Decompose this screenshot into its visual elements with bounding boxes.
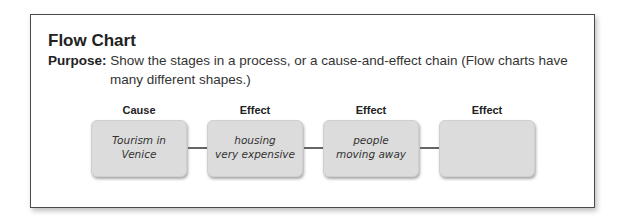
- step-1-box: Tourism in Venice: [91, 120, 187, 177]
- step-4-box: [439, 120, 535, 177]
- purpose-label: Purpose:: [48, 53, 107, 68]
- step-2-label: Effect: [205, 104, 305, 116]
- step-2-text: housing very expensive: [215, 133, 295, 161]
- step-3-text: people moving away: [336, 133, 406, 161]
- step-1-label: Cause: [89, 104, 189, 116]
- step-2-box: housing very expensive: [207, 120, 303, 177]
- purpose-text-line2: many different shapes.): [48, 70, 578, 89]
- step-4-label: Effect: [437, 104, 537, 116]
- purpose-description: Purpose: Show the stages in a process, o…: [48, 51, 578, 89]
- purpose-text-line1: Show the stages in a process, or a cause…: [110, 53, 568, 68]
- step-1-text: Tourism in Venice: [112, 133, 166, 161]
- page-title: Flow Chart: [48, 31, 136, 51]
- step-3-label: Effect: [321, 104, 421, 116]
- step-3-box: people moving away: [323, 120, 419, 177]
